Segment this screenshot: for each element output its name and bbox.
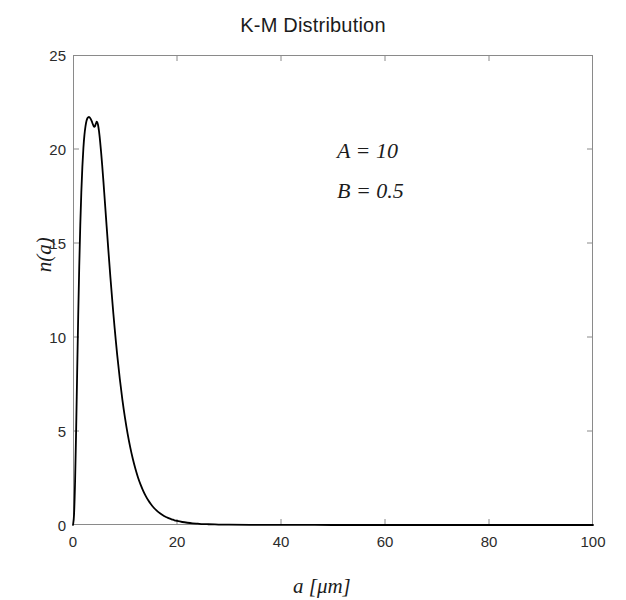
xtick-label-0: 0 [69,533,77,550]
xtick-label-40: 40 [273,533,290,550]
y-axis-label-wrapper: n(a) [14,237,75,290]
x-axis-label-wrapper: a [μm] [0,556,626,600]
y-axis-label: n(a) [32,237,56,272]
ytick-label-25: 25 [28,47,66,64]
chart-title: K-M Distribution [0,14,626,37]
xtick-label-20: 20 [169,533,186,550]
x-axis-label: a [μm] [293,574,351,598]
ytick-label-20: 20 [28,141,66,158]
annotation-parameter-a: A = 10 [337,138,398,164]
chart-figure: K-M Distribution 25 20 15 10 5 0 0 20 40… [0,0,626,600]
ytick-label-5: 5 [28,423,66,440]
xtick-label-60: 60 [377,533,394,550]
annotation-parameter-b: B = 0.5 [337,178,404,204]
ytick-label-0: 0 [28,517,66,534]
plot-area [73,55,593,525]
xtick-label-100: 100 [580,533,605,550]
xtick-label-80: 80 [481,533,498,550]
ytick-label-10: 10 [28,329,66,346]
